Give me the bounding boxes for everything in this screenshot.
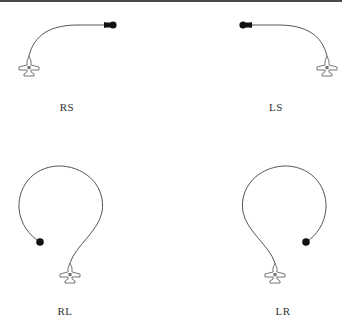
trajectory-lr — [242, 166, 326, 263]
endpoint-marker-rs — [104, 21, 117, 28]
aircraft-icon-lr — [265, 263, 285, 283]
trajectory-rl — [19, 166, 103, 263]
label-ls: LS — [269, 101, 283, 113]
endpoint-marker-lr — [302, 238, 310, 246]
label-rl: RL — [57, 305, 72, 317]
panel-lr — [242, 166, 326, 283]
endpoint-marker-rl — [36, 238, 44, 246]
aircraft-icon-rs — [19, 56, 39, 76]
panel-rs — [19, 21, 117, 76]
endpoint-marker-ls — [239, 21, 252, 28]
panel-rl — [19, 166, 103, 283]
label-rs: RS — [60, 101, 74, 113]
trajectory-ls — [250, 25, 327, 56]
aircraft-icon-ls — [317, 56, 337, 76]
trajectory-rs — [29, 25, 106, 56]
panel-ls — [239, 21, 337, 76]
maneuver-diagram — [0, 0, 355, 330]
aircraft-icon-rl — [60, 263, 80, 283]
label-lr: LR — [275, 305, 290, 317]
